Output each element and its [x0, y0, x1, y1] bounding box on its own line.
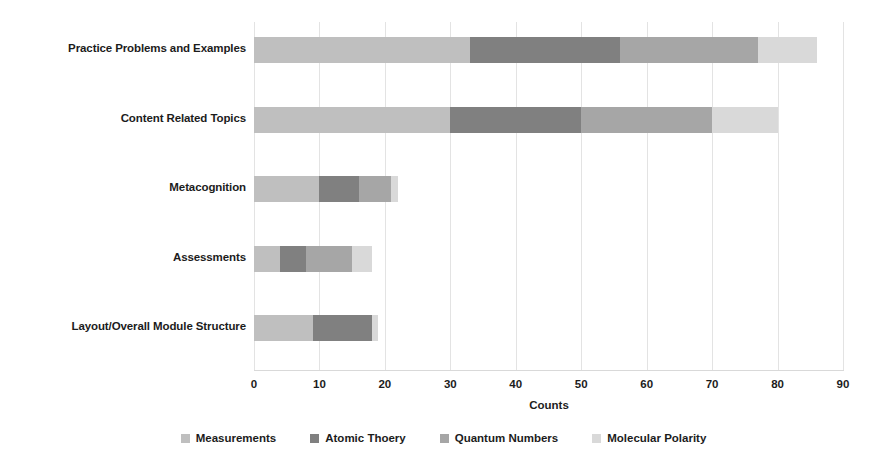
bar-row — [254, 176, 398, 202]
bar-row — [254, 246, 372, 272]
legend-swatch-icon — [181, 434, 190, 443]
bar-segment — [254, 315, 313, 341]
legend-label: Measurements — [196, 432, 277, 444]
legend-item: Molecular Polarity — [592, 432, 706, 444]
bar-segment — [280, 246, 306, 272]
gridline-40 — [516, 22, 517, 370]
bar-row — [254, 315, 378, 341]
legend-item: Measurements — [181, 432, 277, 444]
legend-label: Quantum Numbers — [455, 432, 559, 444]
x-tick-label: 30 — [444, 378, 457, 390]
bar-segment — [359, 176, 392, 202]
category-label: Practice Problems and Examples — [6, 42, 246, 54]
gridline-80 — [778, 22, 779, 370]
x-tick-label: 40 — [509, 378, 522, 390]
bar-segment — [319, 176, 358, 202]
chart-legend: MeasurementsAtomic ThoeryQuantum Numbers… — [0, 432, 887, 444]
bar-segment — [352, 246, 372, 272]
gridline-50 — [581, 22, 582, 370]
gridline-30 — [450, 22, 451, 370]
x-tick-label: 10 — [313, 378, 326, 390]
x-axis-baseline — [254, 370, 844, 371]
legend-label: Atomic Thoery — [325, 432, 406, 444]
legend-swatch-icon — [440, 434, 449, 443]
bar-segment — [254, 246, 280, 272]
bar-segment — [581, 107, 712, 133]
bar-segment — [254, 37, 470, 63]
bar-segment — [620, 37, 757, 63]
category-label: Content Related Topics — [6, 112, 246, 124]
bar-segment — [712, 107, 777, 133]
gridline-90 — [843, 22, 844, 370]
stacked-bar-chart: Practice Problems and ExamplesContent Re… — [0, 0, 887, 472]
x-tick-label: 80 — [771, 378, 784, 390]
x-axis-title: Counts — [254, 399, 844, 411]
category-label: Assessments — [6, 251, 246, 263]
legend-label: Molecular Polarity — [607, 432, 706, 444]
x-tick-label: 0 — [251, 378, 257, 390]
plot-area — [254, 22, 843, 370]
x-tick-label: 70 — [706, 378, 719, 390]
bar-segment — [372, 315, 379, 341]
x-tick-label: 60 — [640, 378, 653, 390]
bar-row — [254, 107, 778, 133]
gridline-70 — [712, 22, 713, 370]
bar-segment — [391, 176, 398, 202]
x-axis-tick-labels: 0102030405060708090 — [254, 378, 844, 396]
legend-swatch-icon — [310, 434, 319, 443]
bar-segment — [313, 315, 372, 341]
x-tick-label: 50 — [575, 378, 588, 390]
legend-item: Quantum Numbers — [440, 432, 559, 444]
bar-segment — [470, 37, 621, 63]
gridline-60 — [647, 22, 648, 370]
x-tick-label: 20 — [378, 378, 391, 390]
category-label: Metacognition — [6, 181, 246, 193]
bar-segment — [450, 107, 581, 133]
legend-item: Atomic Thoery — [310, 432, 406, 444]
category-label: Layout/Overall Module Structure — [6, 320, 246, 332]
legend-swatch-icon — [592, 434, 601, 443]
bar-segment — [758, 37, 817, 63]
bar-segment — [254, 176, 319, 202]
bar-row — [254, 37, 817, 63]
x-tick-label: 90 — [837, 378, 850, 390]
bar-segment — [254, 107, 450, 133]
category-axis-labels: Practice Problems and ExamplesContent Re… — [0, 22, 246, 370]
bar-segment — [306, 246, 352, 272]
